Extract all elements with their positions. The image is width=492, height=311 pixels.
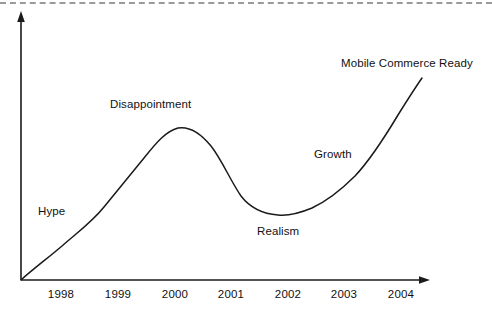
x-tick-label: 2002: [268, 288, 308, 300]
y-axis-arrow-icon: [17, 11, 25, 22]
annotation-growth: Growth: [314, 148, 352, 160]
x-tick-label: 1998: [41, 288, 81, 300]
annotation-realism: Realism: [257, 225, 299, 237]
x-tick-label: 2003: [324, 288, 364, 300]
annotation-hype: Hype: [38, 205, 65, 217]
chart-canvas: Hype Disappointment Realism Growth Mobil…: [0, 0, 492, 311]
x-tick-label: 2000: [155, 288, 195, 300]
hype-cycle-curve: [21, 78, 422, 280]
hype-cycle-plot: [0, 0, 492, 311]
annotation-disappointment: Disappointment: [110, 98, 191, 110]
x-tick-label: 2001: [211, 288, 251, 300]
x-tick-label: 2004: [381, 288, 421, 300]
x-axis-arrow-icon: [419, 276, 430, 284]
annotation-mobile-commerce-ready: Mobile Commerce Ready: [341, 57, 473, 69]
x-tick-label: 1999: [98, 288, 138, 300]
